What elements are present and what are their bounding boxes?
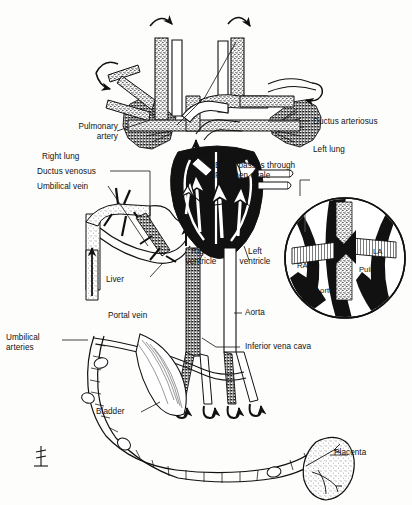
label-ductus-arteriosus: Ductus arteriosus <box>313 117 378 127</box>
label-inferior-vena-cava: Inferior vena cava <box>245 342 311 352</box>
label-placenta: Placenta <box>334 448 366 458</box>
heart <box>171 140 293 259</box>
label-pulmonary-artery: Pulmonary artery <box>60 122 118 141</box>
label-liver: Liver <box>106 275 124 285</box>
label-right-ventricle: Right ventricle <box>183 247 219 266</box>
label-left-ventricle: Left ventricle <box>238 247 272 266</box>
label-right-lung: Right lung <box>42 152 79 162</box>
inset-label-pulm-art: Pulm. art. <box>359 266 379 283</box>
label-umbilical-vein: Umbilical vein <box>37 182 88 192</box>
placenta-structure <box>303 437 354 500</box>
label-umbilical-arteries: Umbilical arteries <box>6 333 40 352</box>
label-bladder: Bladder <box>96 407 125 417</box>
fetal-circulation-figure: Pulmonary artery Right lung Ductus arter… <box>0 0 412 505</box>
label-left-lung: Left lung <box>313 145 345 155</box>
label-foramen-ovale-note: Blood passes through Foramen ovale <box>215 161 295 180</box>
foramen-ovale-inset <box>285 196 405 318</box>
inset-label-la: LA <box>373 248 382 257</box>
label-portal-vein: Portal vein <box>108 311 147 321</box>
bladder-structure <box>136 334 186 416</box>
inset-label-ra: RA <box>297 262 308 271</box>
label-ductus-venosus: Ductus venosus <box>37 167 96 177</box>
label-aorta: Aorta <box>245 308 265 318</box>
inset-label-aorta: Aorta <box>315 287 333 296</box>
artist-monogram <box>34 446 48 466</box>
